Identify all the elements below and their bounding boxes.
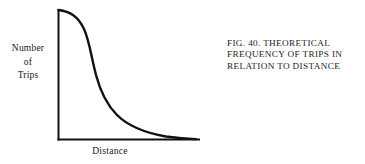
x-axis-label: Distance [60,146,160,156]
figure-caption-line-2: FREQUENCY OF TRIPS IN [227,49,365,60]
figure-caption-line-3: RELATION TO DISTANCE [227,61,365,72]
figure-caption: FIG. 40. THEORETICAL FREQUENCY OF TRIPS … [227,38,365,72]
figure-caption-line-1: FIG. 40. THEORETICAL [227,38,365,49]
y-axis-label-line-3: Trips [2,69,54,83]
y-axis-label-line-1: Number [2,42,54,56]
y-axis-label: Number of Trips [2,42,54,83]
frequency-decay-curve [59,10,197,139]
y-axis-label-line-2: of [2,56,54,70]
figure-container: Number of Trips Distance FIG. 40. THEORE… [0,0,365,164]
